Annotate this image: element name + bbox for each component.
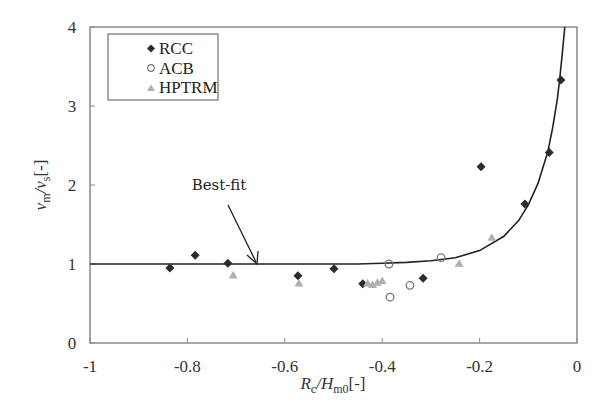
y-tick-label: 0 [68,334,77,353]
x-label-end: [-] [349,374,366,393]
x-tick-label: -0.6 [271,357,298,376]
y-label-end: [-] [31,160,50,177]
chart: -1-0.8-0.6-0.4-0.20 01234 Rc/Hm0[-] vm/v… [0,0,609,415]
x-tick-label: -0.2 [466,357,493,376]
legend: RCC ACB HPTRM [108,34,218,100]
x-tick-label: -1 [83,357,97,376]
legend-label: ACB [159,59,194,78]
x-tick-label: -0.4 [369,357,396,376]
svg-text:Rc/Hm0[-]: Rc/Hm0[-] [299,374,365,396]
y-tick-label: 1 [68,255,77,274]
x-tick-label: -0.8 [174,357,201,376]
x-tick-label: 0 [573,357,582,376]
y-tick-label: 2 [68,176,77,195]
x-axis-label: Rc/Hm0[-] [299,374,365,396]
y-tick-label: 3 [68,97,77,116]
y-label-mid: /v [31,181,50,195]
x-label-sub2: m0 [333,382,348,396]
y-tick-label: 4 [68,18,77,37]
legend-label: RCC [159,39,193,58]
best-fit-label: Best-fit [192,176,247,194]
y-axis-label: vm/vs[-] [31,160,53,211]
y-axis-tick-labels: 01234 [68,18,77,353]
x-label-mid: /H [315,374,335,393]
legend-label: HPTRM [159,78,218,97]
x-label-main: R [299,374,311,393]
svg-text:vm/vs[-]: vm/vs[-] [31,160,53,211]
